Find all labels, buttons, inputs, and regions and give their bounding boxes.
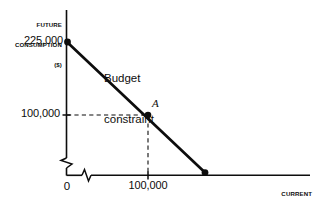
x-axis-break-mark bbox=[82, 170, 91, 182]
budget-constraint-label-line2: constraint bbox=[104, 113, 184, 127]
x-tick-label-100000: 100,000 bbox=[110, 180, 186, 192]
y-axis-title-line3: ($) bbox=[4, 62, 62, 69]
y-tick-label-225000: 225,000 bbox=[8, 35, 63, 47]
x-axis-title: CURRENT CONSUMPTION ($) bbox=[232, 178, 312, 208]
budget-constraint-figure: FUTURE CONSUMPTION ($) 225,000 100,000 0… bbox=[0, 0, 315, 208]
vertical-intercept-marker bbox=[64, 39, 71, 46]
point-a-label: A bbox=[152, 98, 164, 110]
y-axis-title-line1: FUTURE bbox=[4, 22, 62, 29]
budget-constraint-label: Budget constraint bbox=[104, 45, 184, 154]
budget-constraint-label-line1: Budget bbox=[104, 72, 184, 86]
x-axis-title-line1: CURRENT bbox=[232, 191, 312, 198]
y-axis-break-mark bbox=[61, 158, 72, 168]
y-tick-label-100000: 100,000 bbox=[8, 108, 60, 120]
horizontal-intercept-marker bbox=[202, 169, 209, 176]
origin-label: 0 bbox=[60, 180, 74, 192]
